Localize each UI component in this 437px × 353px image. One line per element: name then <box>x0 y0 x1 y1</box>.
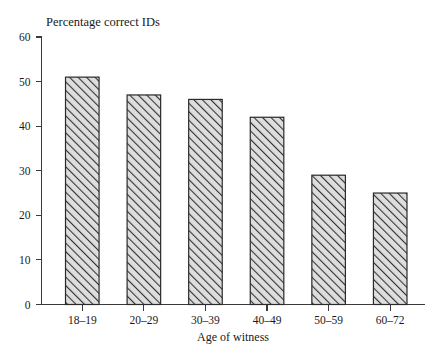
y-tick-label: 50 <box>19 76 31 88</box>
y-tick-label: 60 <box>19 31 31 43</box>
x-tick-label: 30–39 <box>191 314 220 326</box>
x-tick-label: 20–29 <box>130 314 159 326</box>
bar <box>250 117 284 304</box>
bar <box>66 77 100 304</box>
bar <box>127 95 161 305</box>
bar-chart-figure: Percentage correct IDs 0102030405060 18–… <box>0 0 437 353</box>
bar <box>312 175 346 304</box>
y-tick-label: 40 <box>19 120 31 132</box>
x-tick-label: 50–59 <box>314 314 343 326</box>
bar <box>373 193 407 304</box>
y-tick-label: 10 <box>19 254 31 266</box>
chart-canvas: Percentage correct IDs 0102030405060 18–… <box>0 0 437 353</box>
y-tick-label: 20 <box>19 209 31 221</box>
x-tick-label: 18–19 <box>68 314 97 326</box>
x-axis-title: Age of witness <box>197 330 269 344</box>
y-tick-label: 30 <box>19 165 31 177</box>
x-tick-label: 40–49 <box>253 314 282 326</box>
chart-title: Percentage correct IDs <box>46 15 160 29</box>
y-tick-label: 0 <box>25 299 31 311</box>
x-tick-label: 60–72 <box>376 314 405 326</box>
bar <box>189 99 223 304</box>
